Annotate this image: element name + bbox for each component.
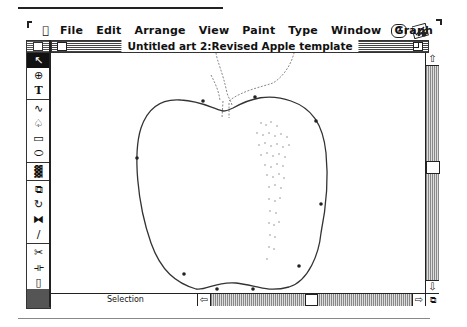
- status-label: Selection: [107, 295, 144, 304]
- horizontal-scroll-thumb[interactable]: [305, 294, 318, 306]
- shear-tool-icon[interactable]: ∕: [27, 227, 50, 242]
- menu-window[interactable]: Window: [331, 24, 382, 37]
- menu-edit[interactable]: Edit: [96, 24, 121, 37]
- menu-bar:  File Edit Arrange View Paint Type Wind…: [26, 22, 446, 38]
- pen-tool-icon[interactable]: ♤: [27, 116, 50, 131]
- grow-box-icon[interactable]: ⧉: [425, 293, 439, 306]
- menu-paint[interactable]: Paint: [242, 24, 275, 37]
- anchor-points: [135, 95, 323, 291]
- menu-file[interactable]: File: [60, 24, 83, 37]
- zoom-box-icon[interactable]: [413, 42, 423, 51]
- vertical-scrollbar[interactable]: ⇧ ⇩: [425, 53, 439, 293]
- palette-footer: [27, 289, 50, 308]
- window-title-bar[interactable]: Untitled art 2:Revised Apple template: [51, 40, 429, 53]
- scroll-left-arrow-icon[interactable]: ⇦: [197, 294, 211, 306]
- rotate-tool-icon[interactable]: ↻: [27, 197, 50, 212]
- apple-menu-icon[interactable]: : [40, 24, 52, 37]
- apple-outline: [137, 97, 327, 289]
- type-tool-icon[interactable]: T: [27, 83, 50, 98]
- highlight-template: [256, 121, 289, 259]
- close-box-icon[interactable]: [57, 42, 67, 51]
- help-icon[interactable]: ?: [391, 24, 407, 38]
- artwork-canvas[interactable]: [51, 53, 425, 293]
- tool-palette: ↖ ⊕ T ∿ ♤ ▭ ⬭ ▓ ⧉ ↻ ⧓ ∕ ✂ ⟛ ▯ ▁▃▅: [26, 52, 51, 309]
- palette-close-box[interactable]: [33, 42, 43, 51]
- screen-top-edge: [18, 7, 223, 9]
- menu-arrange[interactable]: Arrange: [134, 24, 185, 37]
- scroll-right-arrow-icon[interactable]: ⇨: [412, 294, 425, 306]
- menu-type[interactable]: Type: [288, 24, 318, 37]
- stem-template: [211, 53, 294, 118]
- scale-tool-icon[interactable]: ⧉: [27, 182, 50, 197]
- horizontal-scrollbar[interactable]: ⇦ ⇨: [197, 293, 425, 306]
- freehand-tool-icon[interactable]: ∿: [27, 101, 50, 116]
- zoom-tool-icon[interactable]: ⊕: [27, 68, 50, 83]
- palette-divider: [27, 162, 50, 163]
- status-area[interactable]: Selection: [51, 293, 197, 306]
- oval-tool-icon[interactable]: ⬭: [27, 146, 50, 161]
- scroll-up-arrow-icon[interactable]: ⇧: [426, 53, 439, 66]
- scroll-down-arrow-icon[interactable]: ⇩: [426, 280, 439, 293]
- page-tool-icon[interactable]: ▯: [27, 275, 50, 290]
- scissors-tool-icon[interactable]: ✂: [27, 245, 50, 260]
- menu-view[interactable]: View: [199, 24, 230, 37]
- blend-tool-icon[interactable]: ▓: [27, 164, 50, 179]
- selection-arrow-tool-icon[interactable]: ↖: [27, 53, 50, 68]
- palette-divider: [27, 180, 50, 181]
- palette-divider: [27, 243, 50, 244]
- application-icon[interactable]: [412, 23, 430, 39]
- measure-tool-icon[interactable]: ⟛: [27, 260, 50, 275]
- rectangle-tool-icon[interactable]: ▭: [27, 131, 50, 146]
- screen-bottom-edge: [18, 318, 430, 319]
- window-title: Untitled art 2:Revised Apple template: [121, 40, 358, 52]
- palette-divider: [27, 99, 50, 100]
- vertical-scroll-thumb[interactable]: [426, 161, 440, 174]
- reflect-tool-icon[interactable]: ⧓: [27, 212, 50, 227]
